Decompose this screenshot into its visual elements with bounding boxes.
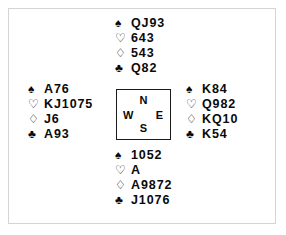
hand-east-hearts-row: ♡ Q982	[186, 97, 238, 112]
hand-west-hearts-ranks: KJ1075	[44, 97, 93, 112]
hand-south-spades-row: ♠ 1052	[115, 148, 172, 163]
hand-north-spades-row: ♠ QJ93	[115, 16, 165, 31]
bridge-deal-diagram: ♠ QJ93 ♡ 643 ♢ 543 ♣ Q82 ♠ A76 ♡ KJ1075 …	[0, 0, 286, 235]
hand-east-spades-row: ♠ K84	[186, 82, 238, 97]
club-icon: ♣	[115, 193, 131, 208]
hand-north-diamonds-ranks: 543	[131, 46, 155, 61]
hand-south: ♠ 1052 ♡ A ♢ A9872 ♣ J1076	[115, 148, 172, 208]
diamond-icon: ♢	[28, 112, 44, 127]
hand-north: ♠ QJ93 ♡ 643 ♢ 543 ♣ Q82	[115, 16, 165, 76]
club-icon: ♣	[28, 127, 44, 142]
hand-south-diamonds-ranks: A9872	[131, 178, 172, 193]
hand-west: ♠ A76 ♡ KJ1075 ♢ J6 ♣ A93	[28, 82, 93, 142]
hand-north-hearts-row: ♡ 643	[115, 31, 165, 46]
hand-north-clubs-row: ♣ Q82	[115, 61, 165, 76]
hand-west-spades-ranks: A76	[44, 82, 70, 97]
hand-east-spades-ranks: K84	[202, 82, 228, 97]
hand-east-clubs-ranks: K54	[202, 127, 228, 142]
spade-icon: ♠	[186, 82, 202, 97]
compass-label-south: S	[140, 123, 147, 134]
hand-south-clubs-row: ♣ J1076	[115, 193, 172, 208]
heart-icon: ♡	[186, 97, 202, 112]
hand-south-diamonds-row: ♢ A9872	[115, 178, 172, 193]
hand-west-diamonds-row: ♢ J6	[28, 112, 93, 127]
compass-label-west: W	[123, 109, 133, 120]
heart-icon: ♡	[28, 97, 44, 112]
hand-east: ♠ K84 ♡ Q982 ♢ KQ10 ♣ K54	[186, 82, 238, 142]
hand-east-hearts-ranks: Q982	[202, 97, 236, 112]
compass-label-north: N	[140, 95, 148, 106]
club-icon: ♣	[115, 61, 131, 76]
diamond-icon: ♢	[115, 46, 131, 61]
hand-east-clubs-row: ♣ K54	[186, 127, 238, 142]
hand-west-spades-row: ♠ A76	[28, 82, 93, 97]
hand-east-diamonds-row: ♢ KQ10	[186, 112, 238, 127]
heart-icon: ♡	[115, 31, 131, 46]
hand-south-hearts-ranks: A	[131, 163, 141, 178]
hand-west-diamonds-ranks: J6	[44, 112, 60, 127]
hand-west-clubs-row: ♣ A93	[28, 127, 93, 142]
hand-north-clubs-ranks: Q82	[131, 61, 157, 76]
hand-east-diamonds-ranks: KQ10	[202, 112, 238, 127]
hand-south-clubs-ranks: J1076	[131, 193, 170, 208]
club-icon: ♣	[186, 127, 202, 142]
spade-icon: ♠	[28, 82, 44, 97]
hand-west-clubs-ranks: A93	[44, 127, 70, 142]
hand-north-spades-ranks: QJ93	[131, 16, 165, 31]
diamond-icon: ♢	[186, 112, 202, 127]
compass-label-east: E	[156, 109, 163, 120]
compass-box: N W E S	[116, 89, 171, 140]
hand-north-hearts-ranks: 643	[131, 31, 155, 46]
spade-icon: ♠	[115, 16, 131, 31]
hand-north-diamonds-row: ♢ 543	[115, 46, 165, 61]
diamond-icon: ♢	[115, 178, 131, 193]
hand-south-hearts-row: ♡ A	[115, 163, 172, 178]
heart-icon: ♡	[115, 163, 131, 178]
hand-south-spades-ranks: 1052	[131, 148, 162, 163]
hand-west-hearts-row: ♡ KJ1075	[28, 97, 93, 112]
spade-icon: ♠	[115, 148, 131, 163]
